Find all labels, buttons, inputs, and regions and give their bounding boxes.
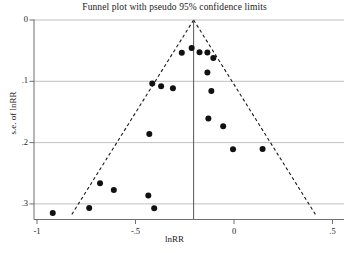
x-tick-label: -1 — [22, 226, 52, 236]
funnel-plot-figure: Funnel plot with pseudo 95% confidence l… — [0, 0, 349, 253]
data-point — [230, 146, 236, 152]
data-point — [149, 80, 155, 86]
data-point — [145, 193, 151, 199]
data-point — [151, 205, 157, 211]
data-point — [260, 146, 266, 152]
data-point — [86, 205, 92, 211]
funnel-line-right — [194, 20, 316, 215]
data-point — [97, 180, 103, 186]
data-point — [111, 187, 117, 193]
data-point — [208, 88, 214, 94]
data-point — [210, 55, 216, 61]
data-point — [220, 123, 226, 129]
x-tick-label: 0 — [219, 226, 249, 236]
data-point — [50, 210, 56, 216]
data-point — [189, 45, 195, 51]
data-point — [146, 131, 152, 137]
y-axis-label: s.e. of lnRR — [8, 83, 18, 143]
axis-lines-group — [34, 20, 344, 220]
data-point — [204, 69, 210, 75]
funnel-line-left — [71, 20, 193, 215]
data-point — [170, 85, 176, 91]
x-tick-label: .5 — [318, 226, 348, 236]
x-axis-label: lnRR — [0, 234, 349, 244]
data-point — [158, 83, 164, 89]
y-tick-label: .3 — [2, 198, 28, 208]
data-point — [204, 49, 210, 55]
data-points-group — [50, 45, 266, 216]
data-point — [197, 49, 203, 55]
data-point — [179, 50, 185, 56]
y-tick-label: 0 — [2, 14, 28, 24]
x-tick-label: -.5 — [121, 226, 151, 236]
y-tick-label: .2 — [2, 137, 28, 147]
plot-canvas — [0, 0, 349, 253]
y-tick-label: .1 — [2, 75, 28, 85]
data-point — [205, 115, 211, 121]
